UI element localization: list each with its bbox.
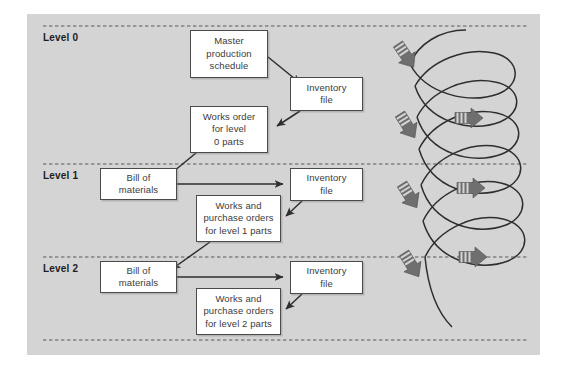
level-label-2: Level 2: [43, 263, 78, 274]
node-label: Inventory file: [304, 82, 350, 107]
node-works-order-level-0: Works order for level 0 parts: [190, 106, 268, 153]
node-label: Bill of materials: [116, 265, 161, 290]
node-label: Master production schedule: [203, 35, 254, 73]
node-works-orders-level-2: Works and purchase orders for level 2 pa…: [196, 288, 281, 335]
level-label-1: Level 1: [43, 170, 78, 181]
node-label: Works order for level 0 parts: [200, 111, 259, 149]
node-inventory-file-level-1: Inventory file: [290, 168, 363, 201]
node-works-orders-level-1: Works and purchase orders for level 1 pa…: [196, 195, 281, 242]
level-label-0: Level 0: [43, 32, 78, 43]
node-bill-of-materials-level-1: Bill of materials: [100, 168, 177, 200]
node-label: Works and purchase orders for level 2 pa…: [200, 293, 276, 331]
node-label: Inventory file: [304, 172, 350, 197]
node-master-production-schedule: Master production schedule: [190, 30, 268, 78]
node-bill-of-materials-level-2: Bill of materials: [100, 261, 177, 293]
node-label: Bill of materials: [116, 172, 161, 197]
node-inventory-file-level-0: Inventory file: [290, 77, 363, 111]
node-label: Works and purchase orders for level 1 pa…: [200, 200, 276, 238]
node-label: Inventory file: [304, 265, 350, 290]
node-inventory-file-level-2: Inventory file: [290, 261, 363, 294]
mrp-explosion-diagram: Level 0 Level 1 Level 2 Master productio…: [0, 0, 566, 369]
